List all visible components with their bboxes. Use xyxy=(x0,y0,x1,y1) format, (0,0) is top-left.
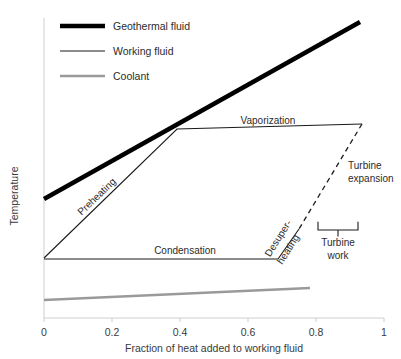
series-working-fluid-heating xyxy=(44,124,362,258)
annotation-turbine: Turbine xyxy=(348,160,382,171)
series-geothermal-fluid xyxy=(44,22,360,199)
annotation-condensation: Condensation xyxy=(154,245,216,256)
annotation-turbine-work-line2: work xyxy=(326,250,349,261)
x-tick-label-5: 1 xyxy=(381,326,387,338)
chart-legend: Geothermal fluid Working fluid Coolant xyxy=(60,20,190,82)
legend-label-working-fluid: Working fluid xyxy=(113,45,174,57)
x-tick-label-0: 0 xyxy=(41,326,47,338)
series-coolant xyxy=(44,288,310,300)
chart-svg: 0 0.2 0.4 0.6 0.8 1 Fraction of heat add… xyxy=(0,0,401,359)
x-tick-label-2: 0.4 xyxy=(173,326,188,338)
legend-label-coolant: Coolant xyxy=(113,70,149,82)
x-tick-label-3: 0.6 xyxy=(241,326,256,338)
annotation-turbine-work-line1: Turbine xyxy=(321,237,355,248)
y-axis-title: Temperature xyxy=(8,166,20,225)
x-tick-label-4: 0.8 xyxy=(309,326,324,338)
annotation-turbine-expansion: expansion xyxy=(348,173,394,184)
x-axis-ticks xyxy=(44,318,384,322)
annotation-preheating: Preheating xyxy=(75,176,117,218)
x-tick-label-1: 0.2 xyxy=(105,326,120,338)
x-axis-title: Fraction of heat added to working fluid xyxy=(125,342,303,354)
turbine-work-brace xyxy=(318,222,358,236)
annotation-vaporization: Vaporization xyxy=(241,115,296,126)
chart-figure: 0 0.2 0.4 0.6 0.8 1 Fraction of heat add… xyxy=(0,0,401,359)
legend-label-geothermal-fluid: Geothermal fluid xyxy=(113,20,190,32)
